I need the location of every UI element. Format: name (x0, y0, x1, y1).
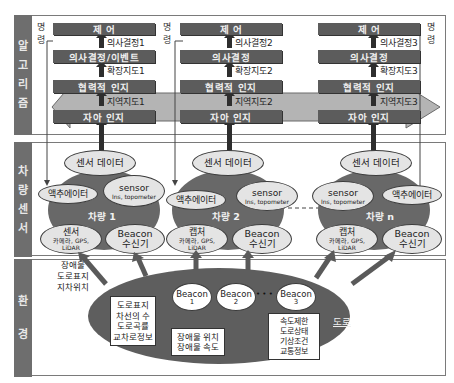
beacon-3: Beacon 3 (276, 283, 316, 311)
environment-side-labels: 장애물 도로표지 지차위치 (57, 260, 89, 293)
road-label: 도로 (333, 314, 351, 328)
beacon-ellipsis: • • • (256, 290, 273, 298)
road-info-box: 도로표지 차선의 수 도로곡률 교차로정보 (110, 296, 156, 346)
sensing-arrows (0, 0, 454, 383)
traffic-info-box: 속도제한 도로상태 기상조건 교통정보 (268, 313, 320, 360)
obstacle-info-box: 장애물 위치 장애물 속도 (171, 328, 225, 356)
beacon-1: Beacon 1 (172, 283, 212, 311)
beacon-2: Beacon 2 (216, 283, 256, 311)
